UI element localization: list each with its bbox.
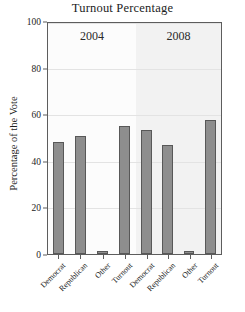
x-tick-mark-2004-0 xyxy=(58,255,59,259)
x-tick-mark-2004-3 xyxy=(125,255,126,259)
chart-figure: Turnout Percentage Percentage of the Vot… xyxy=(0,0,245,312)
x-tick-mark-2008-3 xyxy=(211,255,212,259)
x-axis: DemocratRepublicanOtherTurnoutDemocratRe… xyxy=(0,0,245,312)
x-tick-mark-2008-0 xyxy=(147,255,148,259)
x-tick-label-2004-other: Other xyxy=(93,261,112,280)
x-tick-mark-2004-2 xyxy=(103,255,104,259)
x-tick-label-2008-turnout: Turnout xyxy=(196,261,220,285)
x-tick-mark-2008-2 xyxy=(190,255,191,259)
x-tick-mark-2008-1 xyxy=(168,255,169,259)
x-tick-mark-2004-1 xyxy=(80,255,81,259)
